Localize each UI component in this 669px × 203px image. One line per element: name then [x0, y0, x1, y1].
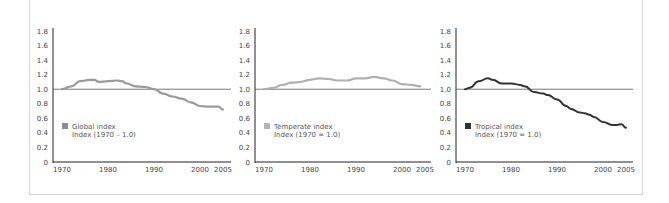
y-tick-label: 0.2	[440, 144, 451, 152]
y-tick-label: 1.6	[440, 42, 452, 50]
y-tick-label: 0.4	[440, 129, 452, 137]
legend-sublabel: Index (1970 – 1.0)	[72, 131, 136, 139]
x-tick-label: 2005	[214, 166, 232, 174]
legend-swatch	[264, 123, 270, 129]
y-tick-label: 1.8	[239, 28, 250, 36]
y-tick-label: 1.2	[239, 71, 250, 79]
series-line-global	[62, 80, 223, 110]
y-tick-label: 1.2	[37, 71, 48, 79]
legend-label: Tropical index	[474, 123, 523, 131]
y-tick-label: 0.2	[239, 144, 250, 152]
y-tick-label: 1.8	[440, 28, 451, 36]
legend-global: Global indexIndex (1970 – 1.0)	[62, 123, 136, 139]
legend-label: Global index	[72, 123, 116, 131]
series-line-temperate	[264, 77, 420, 89]
charts-canvas: 00.20.40.60.81.01.21.41.61.8197019801990…	[0, 0, 669, 203]
y-tick-label: 1.4	[440, 57, 452, 65]
y-tick-label: 0.8	[239, 100, 250, 108]
x-tick-label: 1990	[548, 166, 566, 174]
y-tick-label: 1.2	[440, 71, 451, 79]
x-tick-label: 2000	[191, 166, 209, 174]
x-tick-label: 2005	[416, 166, 434, 174]
x-tick-label: 1980	[301, 166, 319, 174]
y-tick-label: 1.4	[37, 57, 49, 65]
x-tick-label: 1990	[347, 166, 365, 174]
y-tick-label: 0.8	[440, 100, 451, 108]
y-tick-label: 1.0	[37, 86, 48, 94]
series-line-tropical	[465, 78, 626, 128]
x-tick-label: 1980	[99, 166, 117, 174]
legend-tropical: Tropical indexIndex (1970 = 1.0)	[465, 123, 541, 139]
chart-temperate: 00.20.40.60.81.01.21.41.61.8197019801990…	[239, 28, 434, 175]
legend-temperate: Temperate indexIndex (1970 = 1.0)	[264, 123, 340, 139]
y-tick-label: 0	[447, 159, 451, 167]
x-tick-label: 2000	[594, 166, 612, 174]
y-tick-label: 1.8	[37, 28, 48, 36]
x-tick-label: 1970	[53, 166, 71, 174]
legend-sublabel: Index (1970 = 1.0)	[274, 131, 340, 139]
chart-tropical: 00.20.40.60.81.01.21.41.61.8197019801990…	[440, 28, 635, 175]
y-tick-label: 1.4	[239, 57, 251, 65]
chart-global: 00.20.40.60.81.01.21.41.61.8197019801990…	[37, 28, 232, 175]
y-tick-label: 1.0	[239, 86, 250, 94]
y-tick-label: 0.2	[37, 144, 48, 152]
y-tick-label: 1.6	[239, 42, 251, 50]
y-tick-label: 0.8	[37, 100, 48, 108]
y-tick-label: 0.6	[239, 115, 251, 123]
y-tick-label: 0.6	[440, 115, 452, 123]
y-tick-label: 0.4	[37, 129, 49, 137]
x-tick-label: 1970	[255, 166, 273, 174]
x-tick-label: 1980	[502, 166, 520, 174]
x-tick-label: 2000	[393, 166, 411, 174]
y-tick-label: 1.0	[440, 86, 451, 94]
legend-swatch	[62, 123, 68, 129]
legend-sublabel: Index (1970 = 1.0)	[475, 131, 541, 139]
y-tick-label: 0	[246, 159, 250, 167]
y-tick-label: 0.6	[37, 115, 49, 123]
legend-swatch	[465, 123, 471, 129]
legend-label: Temperate index	[273, 123, 333, 131]
y-tick-label: 1.6	[37, 42, 49, 50]
y-tick-label: 0	[44, 159, 48, 167]
y-tick-label: 0.4	[239, 129, 251, 137]
x-tick-label: 2005	[617, 166, 635, 174]
x-tick-label: 1970	[456, 166, 474, 174]
x-tick-label: 1990	[145, 166, 163, 174]
